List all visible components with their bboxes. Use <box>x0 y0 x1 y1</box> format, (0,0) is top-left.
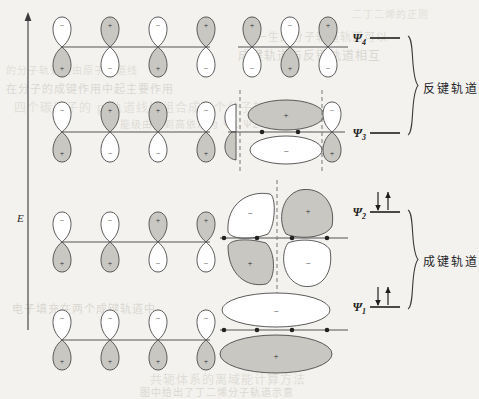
orbital-phase-sign: + <box>156 106 161 115</box>
orbital-phase-sign: − <box>60 314 65 323</box>
orbital-phase-sign: + <box>305 206 310 216</box>
ao-set-psi3[interactable]: −++−+−−+ <box>53 102 215 162</box>
mo-shape-psi4[interactable]: +−−++− <box>238 17 348 77</box>
orbital-phase-sign: − <box>250 64 255 73</box>
orbital-phase-sign: − <box>108 149 113 158</box>
mo-shape-psi1[interactable]: −+ <box>220 293 348 373</box>
orbital-phase-sign: − <box>156 149 161 158</box>
energy-axis[interactable] <box>25 12 32 330</box>
orbital-phase-sign: − <box>247 208 252 218</box>
carbon-node-dot <box>255 328 260 333</box>
energy-level-psi2[interactable]: Ψ2 <box>352 192 400 221</box>
orbital-phase-sign: + <box>60 64 65 73</box>
orbital-phase-sign: + <box>283 110 288 120</box>
orbital-phase-sign: + <box>60 357 65 366</box>
orbital-phase-sign: + <box>108 21 113 30</box>
orbital-label-subscript: 4 <box>361 38 366 47</box>
orbital-phase-sign: − <box>156 314 161 323</box>
orbital-phase-sign: − <box>305 258 310 268</box>
orbital-phase-sign: + <box>60 149 65 158</box>
orbital-phase-sign: − <box>156 21 161 30</box>
orbital-label-subscript: 3 <box>361 133 366 142</box>
brace-antibonding <box>408 36 418 135</box>
carbon-node-dot <box>290 328 295 333</box>
orbital-phase-sign: + <box>108 106 113 115</box>
electron-arrow-up-head <box>385 192 391 198</box>
electron-arrow-down-head <box>375 205 381 211</box>
mo-edge-lobe-top <box>225 104 236 132</box>
orbital-label-subscript: 1 <box>362 307 366 316</box>
orbital-phase-sign: + <box>250 21 255 30</box>
orbital-phase-sign: − <box>204 64 209 73</box>
orbital-phase-sign: − <box>108 64 113 73</box>
antibonding-group-label: 反键轨道 <box>423 79 479 96</box>
ao-set-psi2[interactable]: −+−++−+− <box>53 212 215 272</box>
orbital-phase-sign: − <box>108 314 113 323</box>
energy-axis-label: E <box>16 212 24 224</box>
orbital-phase-sign: + <box>204 149 209 158</box>
orbital-phase-sign: + <box>330 149 335 158</box>
orbital-phase-sign: + <box>247 258 252 268</box>
ao-set-psi1[interactable]: −+−+−+−+ <box>53 310 215 370</box>
mo-shape-psi2[interactable]: −++− <box>220 180 348 296</box>
carbon-node-dot <box>222 236 227 241</box>
orbital-phase-sign: − <box>156 259 161 268</box>
orbital-phase-sign: + <box>204 216 209 225</box>
orbital-phase-sign: + <box>108 259 113 268</box>
energy-level-psi1[interactable]: Ψ1 <box>352 287 400 316</box>
orbital-phase-sign: − <box>204 259 209 268</box>
orbital-phase-sign: + <box>156 216 161 225</box>
orbital-phase-sign: − <box>60 216 65 225</box>
orbital-phase-sign: − <box>273 306 278 316</box>
mo-shape-psi3[interactable]: +−−+ <box>225 90 345 174</box>
orbital-phase-sign: + <box>204 357 209 366</box>
orbital-phase-sign: + <box>273 351 278 361</box>
orbital-phase-sign: + <box>108 357 113 366</box>
electron-arrow-up-head <box>385 287 391 293</box>
carbon-node-dot <box>296 130 301 135</box>
orbital-label-psi2: Ψ2 <box>352 205 366 221</box>
orbital-label-subscript: 2 <box>361 212 366 221</box>
carbon-node-dot <box>325 328 330 333</box>
orbital-label-psi1: Ψ1 <box>352 300 366 316</box>
orbital-phase-sign: + <box>156 64 161 73</box>
carbon-node-dot <box>255 236 260 241</box>
orbital-label-psi4: Ψ4 <box>352 31 366 47</box>
energy-level-psi3[interactable]: Ψ3 <box>352 126 400 142</box>
energy-axis-arrowhead <box>25 12 32 21</box>
orbital-phase-sign: − <box>204 106 209 115</box>
orbital-phase-sign: + <box>326 21 331 30</box>
carbon-node-dot <box>222 328 227 333</box>
energy-level-psi4[interactable]: Ψ4 <box>352 31 400 47</box>
carbon-node-dot <box>290 236 295 241</box>
orbital-phase-sign: + <box>204 21 209 30</box>
orbital-phase-sign: − <box>60 21 65 30</box>
ao-set-psi4[interactable]: −++−−++− <box>53 17 215 77</box>
bonding-group-label: 成键轨道 <box>423 252 479 269</box>
orbital-phase-sign: − <box>108 216 113 225</box>
orbital-phase-sign: + <box>60 259 65 268</box>
orbital-phase-sign: − <box>204 314 209 323</box>
orbital-phase-sign: − <box>326 64 331 73</box>
orbital-phase-sign: − <box>330 106 335 115</box>
carbon-node-dot <box>260 130 265 135</box>
orbital-phase-sign: − <box>60 106 65 115</box>
electron-arrow-down-head <box>375 300 381 306</box>
orbital-phase-sign: + <box>288 64 293 73</box>
orbital-phase-sign: + <box>156 357 161 366</box>
orbital-phase-sign: − <box>283 146 288 156</box>
orbital-phase-sign: − <box>288 21 293 30</box>
orbital-label-psi3: Ψ3 <box>352 126 366 142</box>
carbon-node-dot <box>325 236 330 241</box>
brace-bonding <box>408 210 418 309</box>
mo-edge-lobe-bottom <box>225 132 236 160</box>
